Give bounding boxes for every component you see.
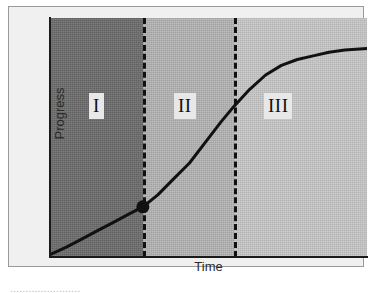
chart-frame: I II III Progress Time bbox=[8, 6, 364, 267]
region-label-iii: III bbox=[264, 93, 292, 119]
figure-container: I II III Progress Time .................… bbox=[0, 0, 374, 293]
plot-area: I II III bbox=[50, 18, 367, 257]
x-axis-label: Time bbox=[50, 259, 367, 274]
region-label-ii: II bbox=[174, 93, 196, 119]
x-axis-line bbox=[49, 256, 368, 258]
phase-transition-marker bbox=[136, 200, 149, 213]
progress-curve-line bbox=[50, 48, 367, 254]
y-axis-label: Progress bbox=[52, 59, 67, 169]
progress-curve-svg bbox=[50, 18, 367, 257]
caption-sliver: ....................... bbox=[10, 282, 364, 293]
region-label-i: I bbox=[89, 93, 104, 119]
